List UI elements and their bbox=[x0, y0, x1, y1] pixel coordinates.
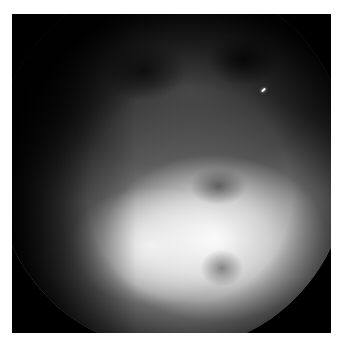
image-frame bbox=[12, 14, 331, 333]
vignette bbox=[12, 14, 331, 333]
endoscope-view-circle bbox=[12, 14, 331, 333]
